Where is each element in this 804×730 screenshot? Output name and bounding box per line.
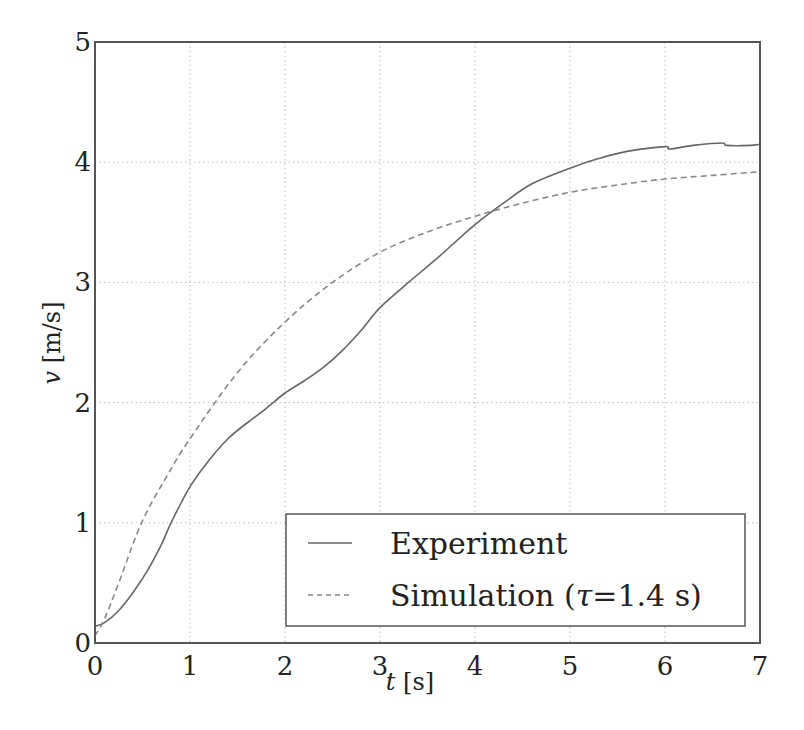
y-axis-var: v [38,371,66,385]
y-axis-unit: [m/s] [38,301,66,371]
legend-label-simulation: Simulation (τ=1.4 s) [390,578,702,613]
legend-label-experiment: Experiment [390,526,567,561]
x-tick-label: 2 [277,651,294,681]
x-tick-label: 5 [562,651,579,681]
line-chart: 01234567012345 t [s] v [m/s] Experiment … [0,0,804,730]
x-tick-label: 4 [467,651,484,681]
x-axis-label: t [s] [386,668,434,696]
legend: Experiment Simulation (τ=1.4 s) [286,514,745,626]
x-axis-unit: [s] [395,668,434,696]
y-axis-label: v [m/s] [38,301,66,384]
y-tick-label: 1 [74,508,91,538]
y-tick-label: 2 [74,388,91,418]
y-tick-label: 4 [74,147,91,177]
y-tick-label: 5 [74,27,91,57]
y-tick-label: 3 [74,267,91,297]
x-tick-label: 6 [657,651,674,681]
x-axis-var: t [386,668,396,696]
x-tick-label: 1 [182,651,199,681]
x-tick-label: 7 [752,651,769,681]
y-tick-label: 0 [74,628,91,658]
